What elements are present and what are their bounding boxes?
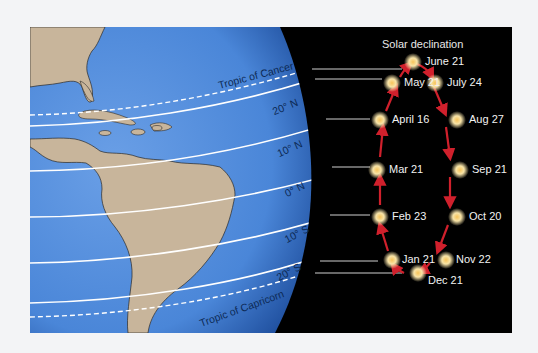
sun-label-july24: July 24 [447, 76, 482, 88]
sun-sep21 [451, 161, 469, 179]
sun-label-june21: June 21 [425, 55, 464, 67]
sun-dec21 [409, 264, 427, 282]
sun-april16 [371, 111, 389, 129]
sun-june21 [404, 53, 422, 71]
sun-label-oct20: Oct 20 [469, 210, 501, 222]
sun-label-aug27: Aug 27 [469, 113, 504, 125]
sun-label-april16: April 16 [392, 113, 429, 125]
sun-aug27 [448, 111, 466, 129]
sun-mar21 [368, 161, 386, 179]
sun-label-feb23: Feb 23 [392, 210, 426, 222]
sun-label-jan21: Jan 21 [402, 253, 435, 265]
sun-oct20 [448, 208, 466, 226]
sun-jan21 [383, 251, 401, 269]
sun-feb23 [371, 208, 389, 226]
sun-label-nov22: Nov 22 [456, 253, 491, 265]
sun-label-may21: May 21 [404, 76, 440, 88]
sun-label-dec21: Dec 21 [428, 274, 463, 286]
sun-label-mar21: Mar 21 [389, 163, 423, 175]
diagram-title: Solar declination [382, 38, 463, 50]
sun-label-sep21: Sep 21 [472, 163, 507, 175]
sun-nov22 [437, 251, 455, 269]
sun-may21 [383, 74, 401, 92]
solar-declination-diagram: Solar declination June 21 May 21 July 24… [30, 27, 512, 333]
